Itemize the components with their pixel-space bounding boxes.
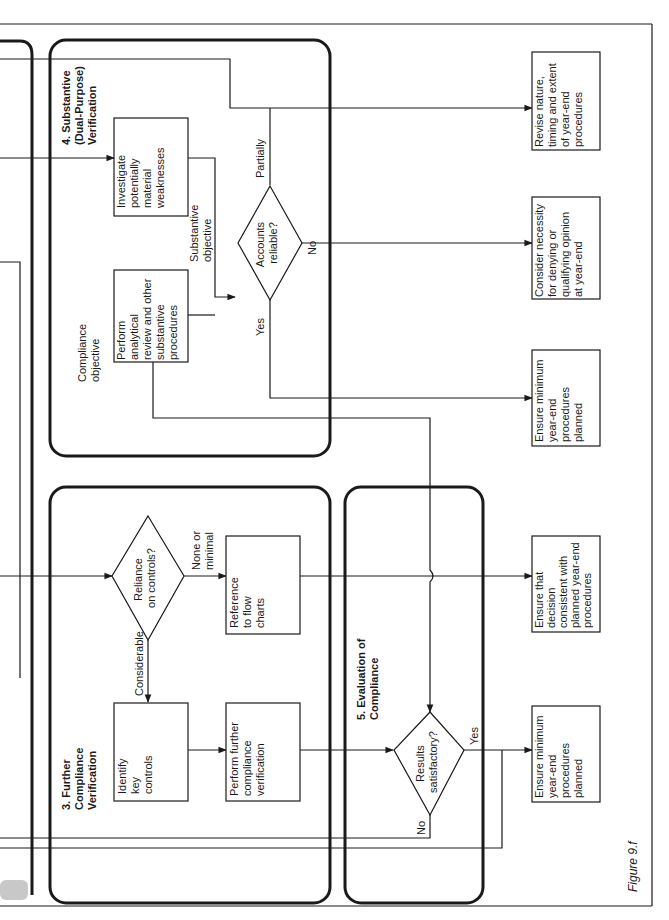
decision-reliance-on-controls: Reliance on controls? (112, 516, 184, 640)
svg-text:5. Evaluation of Complia: 5. Evaluation of Compliance (355, 636, 380, 720)
node-identify-key-controls: Identify key controls (114, 703, 188, 801)
label-yes-accounts: Yes (254, 318, 266, 336)
figure-label: Figure 9.f (626, 840, 640, 892)
flowchart-canvas: 4. Substantive (Dual-Purpose) Verificati… (0, 0, 669, 920)
svg-text:Reliance on controls?: Reliance on controls? (132, 548, 157, 608)
node-ensure-minimum-top: Ensure minimum year-end procedures plann… (532, 350, 600, 446)
svg-text:Accounts reliable?: Accounts reliable? (254, 219, 279, 267)
node-perform-further: Perform further compliance verification (226, 703, 300, 801)
label-partially: Partially (254, 138, 266, 178)
edge-yes-ensure (270, 300, 532, 398)
label-none-minimal: None or minimal (190, 528, 215, 570)
label-no-accounts: No (306, 241, 318, 255)
node-ensure-decision: Ensure that decision consistent with pla… (532, 536, 600, 632)
label-compliance-objective: Compliance objective (76, 321, 101, 382)
node-revise-nature: Revise nature, timing and extent of year… (532, 52, 600, 150)
node-perform-analytical: Perform analytical review and other subs… (114, 270, 188, 362)
edge-left-feed (0, 262, 20, 678)
svg-text:4. Substantive (Dual-Pur: 4. Substantive (Dual-Purpose) Verificati… (60, 63, 98, 145)
decision-accounts-reliable: Accounts reliable? (238, 186, 302, 300)
decision-results-satisfactory: Results satisfactory? (394, 712, 464, 815)
label-no-results: No (415, 821, 427, 835)
node-consider-necessity: Consider necessity for denying or qualif… (532, 197, 600, 299)
left-region-border (0, 41, 32, 900)
node-investigate: Investigate potentially material weaknes… (114, 118, 188, 216)
label-substantive-objective: Substantive objective (188, 201, 213, 262)
node-ensure-minimum-bottom: Ensure minimum year-end procedures plann… (532, 706, 600, 802)
section-evaluation: 5. Evaluation of Compliance (345, 487, 483, 903)
node-reference-flow-charts: Reference to flow charts (226, 536, 300, 634)
label-considerable: Considerable (133, 631, 145, 696)
svg-text:3. Further Compliance: 3. Further Compliance Verification (60, 745, 98, 810)
page-tab-marker (0, 880, 28, 900)
label-yes-results: Yes (468, 727, 480, 745)
